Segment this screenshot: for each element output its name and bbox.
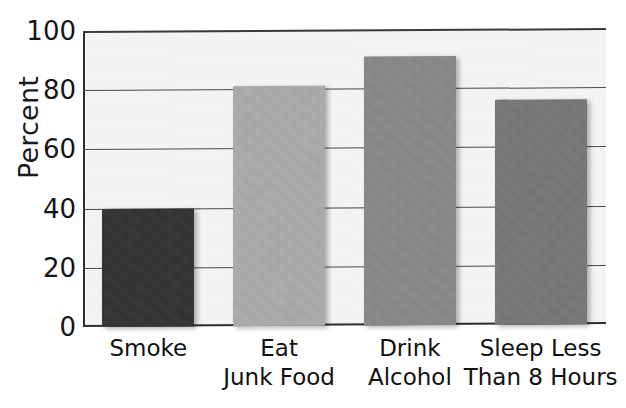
- bar-texture: [233, 86, 325, 326]
- x-label-line-1: Eat: [260, 335, 298, 361]
- x-label-line-2: Than 8 Hours: [457, 363, 624, 392]
- bar-chart-figure: Percent 020406080100 SmokeEatJunk FoodDr…: [0, 0, 626, 408]
- gridline-80: [83, 87, 606, 91]
- x-label-sleep-less-than-8-hours: Sleep LessThan 8 Hours: [457, 334, 624, 393]
- y-tick-label-40: 40: [18, 196, 76, 222]
- bar-texture: [102, 208, 194, 327]
- bar-texture: [364, 56, 456, 326]
- bar-texture: [495, 99, 587, 324]
- y-tick-label-80: 80: [18, 77, 76, 103]
- x-label-line-1: Drink: [379, 335, 440, 361]
- bar-drink-alcohol: [364, 56, 456, 326]
- gridlines: [83, 28, 606, 31]
- x-label-line-1: Sleep Less: [480, 335, 602, 361]
- bar-eat-junk-food: [233, 86, 325, 326]
- chart-title: [0, 0, 626, 5]
- bar-smoke: [102, 208, 194, 327]
- gridline-100: [83, 28, 606, 33]
- bar-sleep-less-than-8-hours: [495, 99, 587, 324]
- plot-area: [83, 28, 606, 327]
- x-label-line-1: Smoke: [110, 335, 188, 361]
- y-tick-label-20: 20: [18, 255, 76, 281]
- y-tick-label-100: 100: [18, 18, 76, 44]
- x-axis-category-labels: SmokeEatJunk FoodDrinkAlcoholSleep LessT…: [0, 334, 626, 408]
- y-tick-label-60: 60: [18, 136, 76, 162]
- y-axis-spine: [83, 31, 85, 327]
